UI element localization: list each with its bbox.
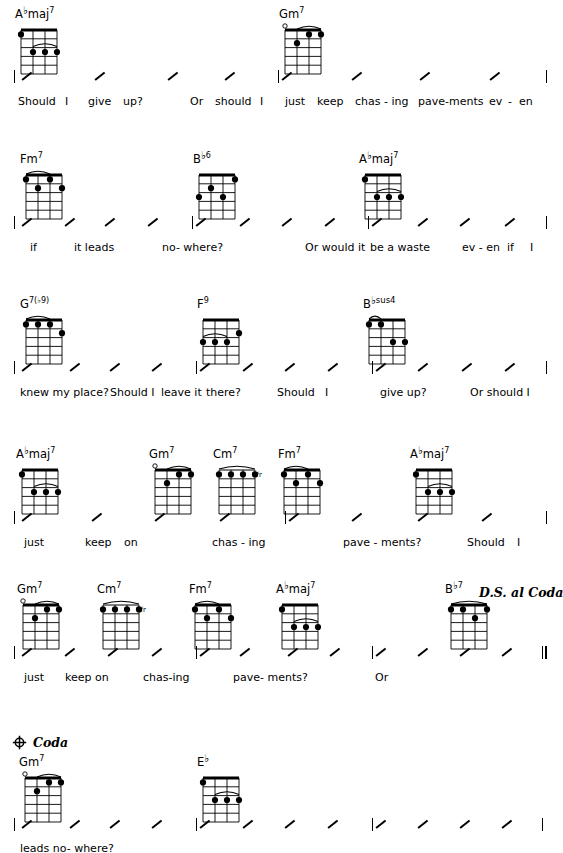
chord-name: Gm7 [17, 583, 70, 597]
lyric-word: keep [317, 95, 344, 109]
chord-name: A♭maj7 [410, 448, 463, 462]
chord-diagram: F9 [196, 298, 250, 364]
end-barline [546, 511, 547, 524]
rhythm-slash [65, 225, 76, 238]
end-barline [546, 216, 547, 229]
rhythm-slash [502, 827, 513, 840]
rhythm-slash [420, 79, 431, 92]
rhythm-slash [240, 655, 251, 668]
rhythm-slash [490, 79, 501, 92]
chord-diagram: Fm7 [19, 153, 73, 219]
chord-fretboard-grid [14, 22, 58, 74]
chord-diagram: Gm7 [18, 756, 72, 822]
barline [14, 818, 15, 831]
lyric-word: keep [85, 536, 112, 550]
chord-diagram: A♭maj7 [15, 448, 69, 514]
barline [196, 818, 197, 831]
chord-name: A♭maj7 [359, 153, 412, 167]
chord-diagram: B♭sus4 [362, 298, 416, 364]
rhythm-slash-row [0, 70, 560, 88]
chord-name: Gm7 [19, 756, 72, 770]
lyric-word: if [30, 241, 37, 255]
barline [14, 216, 15, 229]
lyric-word: chas - ing [212, 536, 265, 550]
rhythm-slash [225, 79, 236, 92]
chord-name: Fm7 [278, 448, 331, 462]
chord-diagram: Fm7 [277, 448, 331, 514]
lyric-word: I [325, 386, 328, 400]
chord-fretboard-grid [196, 770, 240, 822]
coda-icon [12, 735, 27, 750]
lyric-word: Or [190, 95, 203, 109]
lyric-word: Should [467, 536, 505, 550]
chord-fretboard-grid: 3fr [96, 597, 140, 649]
end-barline [542, 646, 543, 659]
lyric-word: leave it [161, 386, 202, 400]
lyric-word: knew my place? [20, 386, 109, 400]
lyric-word: - [508, 95, 512, 109]
chord-fretboard-grid [188, 597, 232, 649]
lyric-word: chas-ing [143, 671, 189, 685]
lyric-word: there? [206, 386, 241, 400]
lyric-word: pave - ments? [343, 536, 421, 550]
lyric-word: keep on [65, 671, 109, 685]
rhythm-slash [376, 827, 387, 840]
rhythm-slash [418, 827, 429, 840]
rhythm-slash [110, 370, 121, 383]
rhythm-slash [285, 370, 296, 383]
chord-name: Gm7 [149, 448, 202, 462]
barline [14, 511, 15, 524]
chord-diagram: G7(♭9) [19, 298, 73, 364]
lyric-word: be a waste [370, 241, 430, 255]
fret-position-label: 3fr [136, 606, 146, 614]
chord-fretboard-grid [19, 167, 63, 219]
chord-fretboard-grid [148, 462, 192, 514]
lyric-word: give up? [380, 386, 427, 400]
rhythm-slash [22, 655, 33, 668]
rhythm-slash [22, 225, 33, 238]
rhythm-slash [325, 225, 336, 238]
rhythm-slash-row [0, 361, 560, 379]
rhythm-slash [196, 225, 207, 238]
barline [14, 70, 15, 83]
chord-diagram: Fm7 [188, 583, 242, 649]
lyric-row: leads no- where? [0, 842, 560, 853]
chord-name: A♭maj7 [16, 448, 69, 462]
barline [196, 361, 197, 374]
lyric-word: just [285, 95, 305, 109]
lyric-word: ev [489, 95, 502, 109]
coda-label: Coda [33, 735, 68, 750]
lyric-word: it leads [74, 241, 114, 255]
rhythm-slash [505, 370, 516, 383]
rhythm-slash [418, 370, 429, 383]
chord-fretboard-grid [362, 312, 406, 364]
rhythm-slash [328, 370, 339, 383]
chord-name: F9 [197, 298, 250, 312]
rhythm-slash [460, 655, 471, 668]
lyric-word: Should I [110, 386, 154, 400]
rhythm-slash [418, 225, 429, 238]
lyric-word: I [260, 95, 263, 109]
chord-diagram: Gm7 [16, 583, 70, 649]
lyric-word: chas - ing [355, 95, 408, 109]
rhythm-slash [460, 225, 471, 238]
rhythm-slash [70, 827, 81, 840]
chord-fretboard-grid [277, 462, 321, 514]
chord-fretboard-grid [444, 597, 488, 649]
lyric-word: on [124, 536, 138, 550]
barline [372, 818, 373, 831]
rhythm-slash [70, 370, 81, 383]
rhythm-slash [418, 520, 429, 533]
lyric-word: ev - en [462, 241, 500, 255]
lyric-row: ShouldIgiveup?OrshouldIjustkeepchas - in… [0, 95, 560, 111]
chord-diagram: E♭ [196, 756, 250, 822]
chord-diagram: Cm73fr [212, 448, 266, 514]
rhythm-slash [168, 79, 179, 92]
lyric-word: if [507, 241, 514, 255]
lyric-word: Or should I [470, 386, 530, 400]
lyric-row: justkeeponchas - ingpave - ments?ShouldI [0, 536, 560, 552]
lyric-word: give [88, 95, 111, 109]
chord-fretboard-grid [358, 167, 402, 219]
chord-diagram: A♭maj7 [14, 8, 68, 74]
